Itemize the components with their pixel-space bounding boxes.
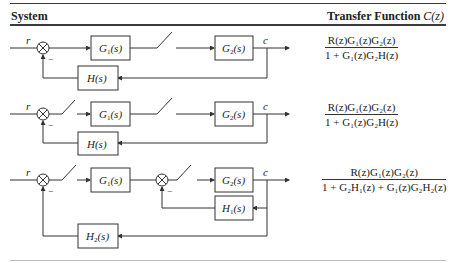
system-diagram-2: r − G1(s) G2(s) c H(s) bbox=[10, 98, 289, 155]
block-h2-label: H2(s) bbox=[85, 230, 109, 244]
block-g2-label: G2(s) bbox=[222, 174, 245, 188]
system-diagram-1: r − G1(s) G2(s) c H(s) bbox=[10, 32, 289, 90]
sampler-switch bbox=[62, 100, 75, 114]
output-label: c bbox=[263, 34, 268, 46]
block-g1-label: G1(s) bbox=[99, 108, 122, 122]
sampler-switch bbox=[157, 98, 172, 114]
block-h-label: H(s) bbox=[86, 72, 107, 85]
block-h1-label: H1(s) bbox=[221, 202, 245, 216]
block-g1-label: G1(s) bbox=[99, 42, 122, 56]
block-h-label: H(s) bbox=[86, 138, 107, 151]
summing-junction bbox=[37, 108, 49, 120]
tf-numerator: R(z)G₁(z)G₂(z) bbox=[325, 34, 398, 48]
transfer-function-2: R(z)G₁(z)G₂(z) 1 + G₁(z)G₂H(z) bbox=[325, 101, 398, 128]
outer-summing-junction bbox=[37, 174, 49, 186]
minus-sign: − bbox=[167, 186, 172, 196]
block-g2-label: G2(s) bbox=[222, 108, 245, 122]
tf-denominator: 1 + G₁(z)G₂H(z) bbox=[325, 115, 398, 128]
tf-numerator: R(z)G₁(z)G₂(z) bbox=[322, 166, 446, 180]
output-label: c bbox=[263, 100, 268, 112]
system-diagram-3: r − G1(s) − G2(s) c H1(s) H2(s) bbox=[10, 165, 289, 248]
inner-summing-junction bbox=[156, 174, 168, 186]
tf-denominator: 1 + G₂H₁(z) + G₁(z)G₂H₂(z) bbox=[322, 180, 446, 193]
block-g1-label: G1(s) bbox=[99, 174, 122, 188]
transfer-function-3: R(z)G₁(z)G₂(z) 1 + G₂H₁(z) + G₁(z)G₂H₂(z… bbox=[322, 166, 446, 193]
block-g2-label: G2(s) bbox=[222, 42, 245, 56]
inner-feedback-line bbox=[253, 180, 267, 208]
sampler-switch bbox=[157, 32, 172, 48]
sampler-switch bbox=[177, 165, 191, 180]
input-label: r bbox=[26, 34, 31, 46]
minus-sign: − bbox=[48, 54, 53, 64]
output-label: c bbox=[263, 166, 268, 178]
tf-numerator: R(z)G₁(z)G₂(z) bbox=[325, 101, 398, 115]
sampler-switch bbox=[62, 165, 76, 180]
minus-sign: − bbox=[48, 186, 53, 196]
tf-denominator: 1 + G₁(z)G₂H(z) bbox=[325, 48, 398, 61]
transfer-function-1: R(z)G₁(z)G₂(z) 1 + G₁(z)G₂H(z) bbox=[325, 34, 398, 61]
input-label: r bbox=[26, 100, 31, 112]
input-label: r bbox=[26, 166, 31, 178]
summing-junction bbox=[37, 42, 49, 54]
minus-sign: − bbox=[48, 120, 53, 130]
